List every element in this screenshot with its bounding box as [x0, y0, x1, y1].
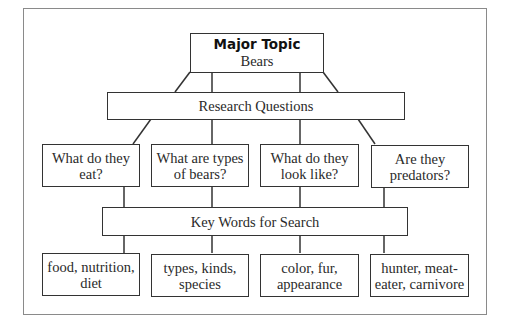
connector-topic-right-diag [323, 72, 338, 92]
key-words-box: Key Words for Search [102, 207, 408, 236]
keyword-line: food, nutrition, [47, 259, 134, 275]
keyword-line: species [179, 276, 221, 292]
connector-rq-q4 [358, 119, 375, 144]
question-line: eat? [79, 166, 102, 182]
question-line: of bears? [174, 166, 227, 182]
keyword-box: types, kinds, species [151, 254, 249, 297]
connector-topic-left-diag [175, 72, 190, 92]
question-line: Are they [395, 151, 445, 167]
question-line: What are types [157, 150, 244, 166]
keyword-line: eater, carnivore [375, 276, 465, 292]
question-box: What do they look like? [260, 144, 359, 187]
keyword-line: color, fur, [281, 260, 337, 276]
research-questions-box: Research Questions [107, 92, 405, 120]
question-box: What do they eat? [42, 144, 140, 187]
keyword-box: food, nutrition, diet [42, 253, 140, 296]
connector-rq-q1 [133, 119, 151, 144]
keyword-line: diet [80, 275, 102, 291]
question-line: predators? [390, 167, 450, 183]
major-topic-subject: Bears [240, 53, 273, 70]
keyword-line: hunter, meat- [381, 260, 458, 276]
keyword-line: types, kinds, [164, 260, 237, 276]
major-topic-title: Major Topic [214, 36, 301, 53]
keyword-box: hunter, meat- eater, carnivore [370, 254, 469, 297]
research-questions-label: Research Questions [199, 98, 314, 114]
question-line: look like? [281, 166, 339, 182]
question-line: What do they [270, 150, 348, 166]
question-box: What are types of bears? [151, 144, 249, 187]
question-line: What do they [52, 150, 130, 166]
key-words-label: Key Words for Search [191, 214, 320, 230]
question-box: Are they predators? [371, 145, 469, 188]
keyword-box: color, fur, appearance [260, 254, 359, 297]
major-topic-box: Major Topic Bears [190, 33, 324, 73]
keyword-line: appearance [277, 276, 342, 292]
